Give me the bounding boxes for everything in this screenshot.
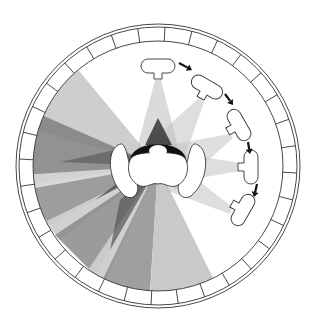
lighting-diagram: Overhead lighting diagram: subject at ce… [0,0,317,327]
ring-segment-tick [251,73,261,82]
ring-segment-tick [283,172,297,173]
ring-segment-tick [164,27,165,41]
ring-segment-tick [46,83,57,91]
ring-segment-tick [212,40,218,53]
ring-segment-tick [32,106,45,112]
ring-segment-tick [39,230,51,237]
lamp-icon: light position 1 [141,59,175,79]
ring-segment-tick [23,132,37,135]
ring-segment-tick [75,266,83,277]
lamp-icon: light position 4 [238,150,258,184]
ring-segment-tick [242,259,251,269]
ring-segment-tick [151,291,152,305]
arrow-icon [225,94,233,105]
ring-segment-tick [282,146,296,148]
ring-segment-tick [200,284,205,297]
ring-segment-tick [176,290,178,304]
ring-segment-tick [138,28,140,42]
ring-segment-tick [222,273,229,285]
ring-segment-tick [20,184,34,186]
ring-segment-tick [276,119,289,124]
ring-segment-tick [19,159,33,160]
lamp-icon: light position 2 [186,72,225,106]
ring-segment-tick [265,95,277,102]
ring-segment-tick [188,31,191,45]
ring-segment-tick [279,196,293,199]
ring-segment-tick [98,279,104,292]
ring-segment-tick [124,287,127,301]
arrow-icon [179,63,192,71]
subject-torso [128,153,187,187]
ring-segment-tick [233,54,241,65]
subject-head [149,145,167,157]
ring-segment-tick [55,250,65,259]
ring-segment-tick [258,241,269,249]
ring-segment-tick [65,63,74,73]
ring-segment-tick [27,208,40,213]
arrow-icon [252,184,259,197]
ring-segment-tick [87,47,94,59]
ring-segment-tick [111,35,116,48]
ring-segment-tick [271,220,284,226]
